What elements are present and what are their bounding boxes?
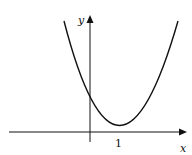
parabola-curve bbox=[64, 21, 178, 126]
y-axis-arrow-icon bbox=[87, 15, 94, 23]
x-axis-label: x bbox=[180, 142, 187, 155]
y-axis-label: y bbox=[77, 14, 85, 27]
tick-label-1: 1 bbox=[115, 137, 122, 150]
graph: y x 1 bbox=[0, 0, 192, 155]
x-axis-arrow-icon bbox=[179, 129, 187, 136]
